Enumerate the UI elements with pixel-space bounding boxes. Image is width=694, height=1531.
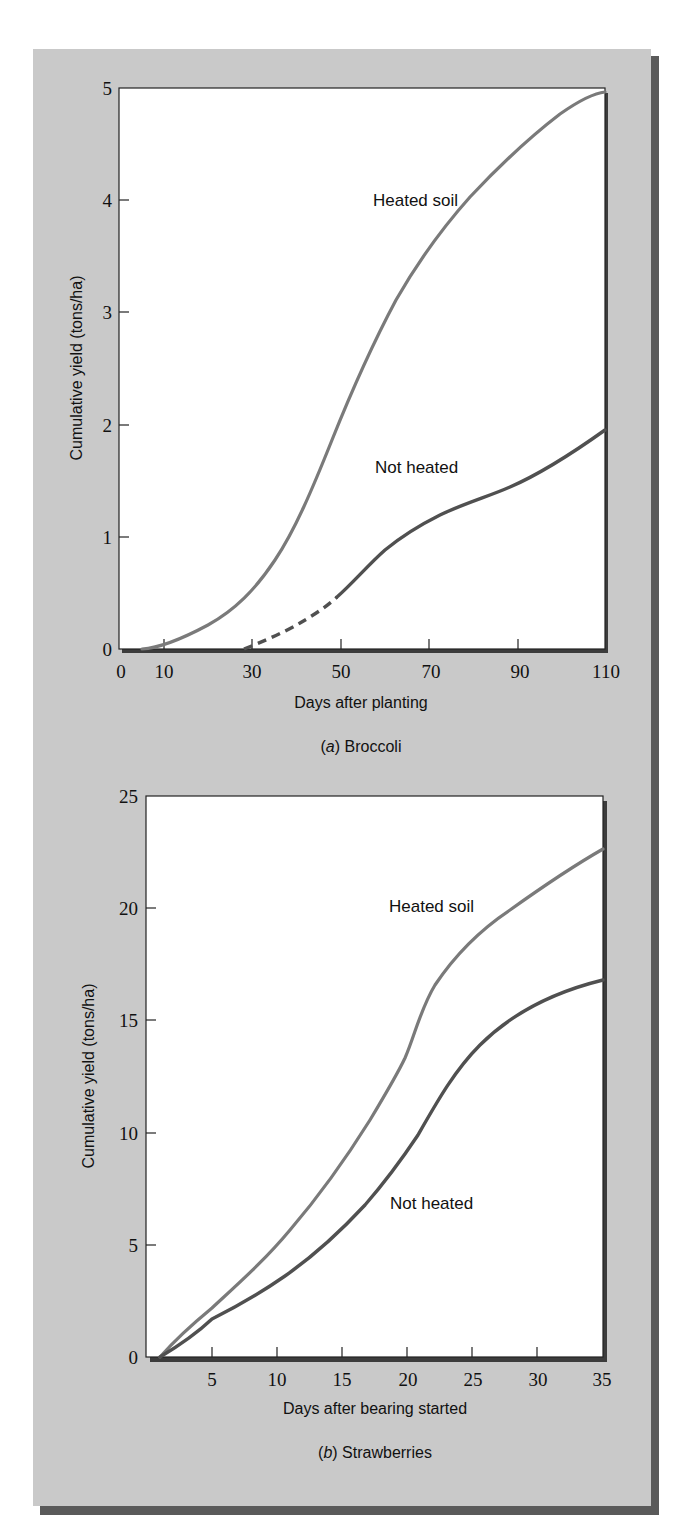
figure-svg: 0 1 2 3 4 5 0 10 30 50 70 90 110 Days af…: [0, 0, 694, 1531]
y-tick-label: 3: [103, 302, 113, 323]
x-tick-label: 30: [529, 1369, 548, 1390]
chart-caption: (b) Strawberries: [318, 1444, 432, 1461]
label-heated-soil: Heated soil: [389, 897, 474, 916]
x-tick-labels: 0 10 30 50 70 90 110: [116, 661, 620, 682]
label-not-heated: Not heated: [375, 458, 458, 477]
y-axis-title: Cumulative yield (tons/ha): [80, 984, 97, 1169]
x-tick-label: 15: [333, 1369, 352, 1390]
y-tick-label: 20: [119, 898, 138, 919]
x-tick-label: 70: [422, 661, 441, 682]
y-axis-title: Cumulative yield (tons/ha): [68, 276, 85, 461]
x-tick-label: 10: [155, 661, 174, 682]
x-tick-label: 10: [268, 1369, 287, 1390]
chart-broccoli: 0 1 2 3 4 5 0 10 30 50 70 90 110 Days af…: [68, 78, 620, 755]
x-tick-label: 20: [399, 1369, 418, 1390]
x-tick-label: 5: [207, 1369, 217, 1390]
y-tick-labels: 0 1 2 3 4 5: [103, 78, 113, 660]
label-not-heated: Not heated: [390, 1194, 473, 1213]
caption-text: Broccoli: [345, 738, 402, 755]
label-heated-soil: Heated soil: [373, 191, 458, 210]
chart-strawberries: 0 5 10 15 20 25 5 10 15 20 25 30 35 Days…: [80, 786, 612, 1461]
caption-text: Strawberries: [342, 1444, 432, 1461]
x-axis-title: Days after bearing started: [283, 1400, 467, 1417]
plot-area: [146, 796, 603, 1357]
y-tick-labels: 0 5 10 15 20 25: [119, 786, 138, 1368]
y-tick-label: 1: [103, 527, 113, 548]
x-tick-label: 0: [116, 661, 126, 682]
y-tick-label: 4: [103, 190, 113, 211]
x-tick-label: 35: [593, 1369, 612, 1390]
y-tick-label: 2: [103, 415, 113, 436]
x-tick-label: 25: [464, 1369, 483, 1390]
x-tick-label: 50: [332, 661, 351, 682]
x-tick-label: 90: [511, 661, 530, 682]
x-axis-title: Days after planting: [294, 694, 427, 711]
caption-letter: a: [326, 738, 335, 755]
y-tick-label: 5: [103, 78, 113, 99]
y-tick-label: 5: [129, 1235, 139, 1256]
x-tick-labels: 5 10 15 20 25 30 35: [207, 1369, 611, 1390]
x-tick-label: 30: [243, 661, 262, 682]
chart-caption: (a) Broccoli: [321, 738, 402, 755]
y-tick-label: 0: [103, 639, 113, 660]
y-tick-label: 15: [119, 1010, 138, 1031]
y-tick-label: 0: [129, 1347, 139, 1368]
y-tick-label: 25: [119, 786, 138, 807]
x-tick-label: 110: [592, 661, 620, 682]
caption-letter: b: [323, 1444, 332, 1461]
y-tick-label: 10: [119, 1123, 138, 1144]
